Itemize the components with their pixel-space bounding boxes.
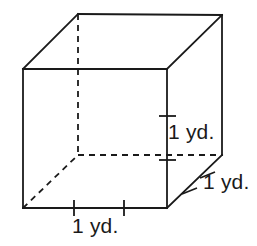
height-dimension-label: 1 yd. xyxy=(168,121,215,142)
hidden-edge-depth-bottom-left xyxy=(23,155,78,208)
depth-dimension-label: 1 yd. xyxy=(203,171,250,192)
edge-depth-top-left xyxy=(23,14,78,69)
edge-depth-top-right xyxy=(167,15,222,69)
cube-diagram: 1 yd. 1 yd. 1 yd. xyxy=(0,0,257,246)
edge-back-top xyxy=(78,14,222,15)
cube-illustration xyxy=(0,0,257,246)
width-dimension-label: 1 yd. xyxy=(72,215,119,236)
